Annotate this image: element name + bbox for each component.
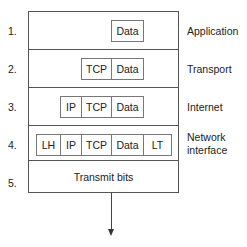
layer-number-1: 1. [8,25,24,37]
layer-name-application: Application [187,25,238,37]
layer-divider [28,87,179,88]
layer-name-internet: Internet [187,101,223,113]
ip-header-cell: IP [60,96,82,118]
link-trailer-cell: LT [143,134,172,156]
data-cell: Data [111,58,144,80]
layer-name-network-interface-line1: Network [187,131,226,143]
layer-number-5: 5. [8,177,24,189]
transmit-bits-label: Transmit bits [28,171,179,183]
layer-number-3: 3. [8,101,24,113]
down-arrow-icon [111,193,112,231]
tcp-header-cell: TCP [81,134,112,156]
link-header-cell: LH [36,134,61,156]
layer-name-transport: Transport [187,63,232,75]
arrow-head-icon [108,229,114,236]
ip-header-cell: IP [60,134,82,156]
layer-divider [28,125,179,126]
layer-divider [28,49,179,50]
layer-divider [28,160,179,161]
tcp-header-cell: TCP [81,58,112,80]
data-cell: Data [111,20,144,42]
layer-name-network-interface-line2: interface [187,144,227,156]
layer-number-2: 2. [8,63,24,75]
tcp-header-cell: TCP [81,96,112,118]
data-cell: Data [111,96,144,118]
layer-number-4: 4. [8,139,24,151]
data-cell: Data [111,134,144,156]
